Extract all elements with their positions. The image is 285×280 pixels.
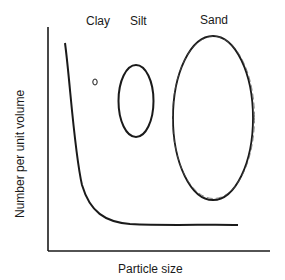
y-axis-label: Number per unit volume bbox=[13, 90, 27, 218]
particle-count-curve bbox=[65, 43, 238, 225]
diagram-canvas bbox=[0, 0, 285, 280]
clay-label: Clay bbox=[86, 14, 110, 28]
x-axis-label: Particle size bbox=[118, 262, 183, 276]
silt-particle-shape bbox=[119, 65, 154, 137]
sand-label: Sand bbox=[200, 13, 228, 27]
clay-particle-shape bbox=[93, 79, 97, 85]
silt-label: Silt bbox=[130, 14, 147, 28]
